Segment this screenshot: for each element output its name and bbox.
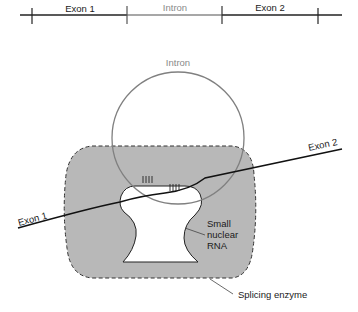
enzyme-label: Splicing enzyme <box>238 289 307 300</box>
gene-bar-exon2-label: Exon 2 <box>255 2 285 13</box>
splicing-diagram: Exon 1 Intron Exon 2 Intron Exon 1 Exon … <box>0 0 358 312</box>
snrna-label-line3: RNA <box>207 240 228 251</box>
snrna-label-line2: nuclear <box>207 229 238 240</box>
exon1-label: Exon 1 <box>17 210 48 228</box>
gene-bar-intron-label: Intron <box>163 2 187 13</box>
intron-label: Intron <box>166 57 190 68</box>
enzyme-leader <box>210 279 233 294</box>
splicing-enzyme <box>64 146 256 278</box>
gene-bar-exon1-label: Exon 1 <box>65 3 95 14</box>
snrna-label-line1: Small <box>207 218 231 229</box>
gene-bar: Exon 1 Intron Exon 2 <box>20 2 342 24</box>
